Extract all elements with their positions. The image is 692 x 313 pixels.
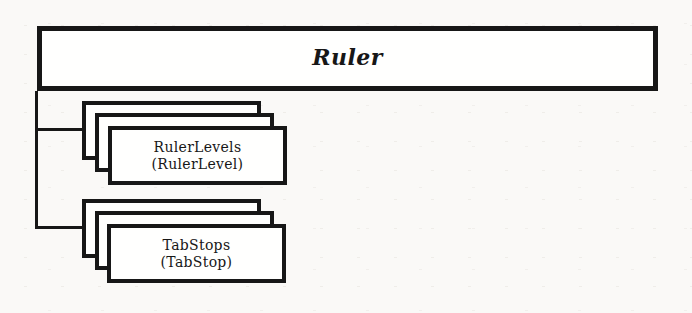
connector-trunk-line bbox=[35, 91, 38, 229]
tabstops-member-name: (TabStop) bbox=[161, 254, 233, 271]
tabstops-node-label: TabStops (TabStop) bbox=[161, 237, 233, 270]
object-model-diagram: Ruler RulerLevels (RulerLevel) TabStops … bbox=[0, 0, 692, 313]
tabstops-node: TabStops (TabStop) bbox=[107, 224, 286, 283]
rulerlevels-node-label: RulerLevels (RulerLevel) bbox=[152, 139, 244, 172]
ruler-node: Ruler bbox=[37, 26, 658, 91]
tabstops-collection-name: TabStops bbox=[161, 237, 233, 254]
connector-branch-rulerlevels bbox=[35, 128, 82, 131]
rulerlevels-collection-name: RulerLevels bbox=[152, 139, 244, 156]
ruler-node-label: Ruler bbox=[312, 44, 383, 70]
rulerlevels-member-name: (RulerLevel) bbox=[152, 156, 244, 173]
connector-branch-tabstops bbox=[35, 226, 82, 229]
rulerlevels-node: RulerLevels (RulerLevel) bbox=[108, 126, 287, 185]
